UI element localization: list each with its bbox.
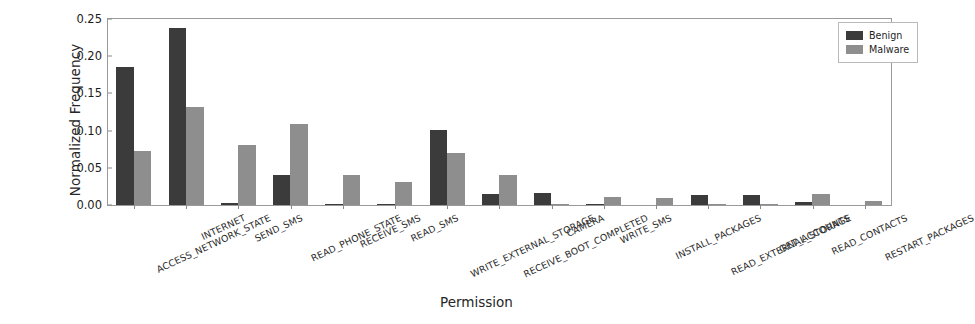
bar-benign bbox=[743, 195, 760, 205]
bar-benign bbox=[221, 203, 238, 205]
bar-malware bbox=[760, 204, 777, 205]
bar-malware bbox=[238, 145, 255, 205]
y-axis-tick-label: 0.20 bbox=[76, 49, 108, 63]
bar-benign bbox=[691, 195, 708, 205]
y-axis-tick-mark bbox=[108, 93, 112, 94]
y-axis-tick-mark bbox=[108, 56, 112, 57]
y-axis-tick-mark bbox=[108, 167, 112, 168]
x-axis-tick-label: ACCESS_NETWORK_STATE bbox=[155, 212, 273, 275]
x-axis-title: Permission bbox=[0, 294, 953, 310]
legend-label-malware: Malware bbox=[869, 44, 909, 55]
y-axis-tick-mark bbox=[108, 19, 112, 20]
bar-malware bbox=[290, 124, 307, 205]
bar-group bbox=[369, 19, 421, 205]
legend-item-malware: Malware bbox=[846, 43, 909, 56]
bar-benign bbox=[169, 28, 186, 205]
bar-malware bbox=[604, 197, 621, 205]
bar-benign bbox=[586, 204, 603, 205]
legend-item-benign: Benign bbox=[846, 29, 909, 42]
bar-malware bbox=[186, 107, 203, 205]
bar-group bbox=[317, 19, 369, 205]
bar-benign bbox=[325, 204, 342, 205]
bar-malware bbox=[447, 153, 464, 205]
legend-swatch-malware-icon bbox=[846, 45, 863, 54]
bar-benign bbox=[430, 130, 447, 205]
bar-benign bbox=[534, 193, 551, 205]
legend-swatch-benign-icon bbox=[846, 31, 863, 40]
bar-group bbox=[108, 19, 160, 205]
bar-malware bbox=[708, 204, 725, 205]
bar-benign bbox=[273, 175, 290, 205]
y-axis-tick-label: 0.25 bbox=[76, 12, 108, 26]
bar-group bbox=[734, 19, 786, 205]
legend-label-benign: Benign bbox=[869, 30, 902, 41]
chart-legend: Benign Malware bbox=[838, 22, 918, 63]
bar-group bbox=[473, 19, 525, 205]
x-axis-tick-label: READ_PHONE_STATE bbox=[309, 212, 403, 264]
bar-group bbox=[526, 19, 578, 205]
bars-container bbox=[108, 19, 891, 205]
y-axis-tick-label: 0.00 bbox=[76, 198, 108, 212]
bar-benign bbox=[482, 194, 499, 205]
bar-malware bbox=[499, 175, 516, 206]
bar-group bbox=[265, 19, 317, 205]
bar-group bbox=[787, 19, 839, 205]
bar-malware bbox=[551, 204, 568, 205]
bar-malware bbox=[395, 182, 412, 205]
y-axis-tick-mark bbox=[108, 130, 112, 131]
bar-malware bbox=[134, 151, 151, 205]
bar-malware bbox=[656, 198, 673, 205]
bar-malware bbox=[812, 194, 829, 205]
bar-malware bbox=[343, 175, 360, 205]
bar-group bbox=[212, 19, 264, 205]
bar-group bbox=[421, 19, 473, 205]
bar-group bbox=[682, 19, 734, 205]
bar-benign bbox=[377, 204, 394, 205]
bar-group bbox=[160, 19, 212, 205]
plot-area: 0.000.050.100.150.200.25 bbox=[107, 18, 892, 206]
y-axis-tick-label: 0.15 bbox=[76, 86, 108, 100]
bar-group bbox=[630, 19, 682, 205]
bar-benign bbox=[795, 202, 812, 205]
bar-malware bbox=[865, 201, 882, 205]
x-axis-tick-label: INSTALL_PACKAGES bbox=[674, 212, 763, 261]
x-axis-tick-labels: ACCESS_NETWORK_STATEINTERNETSEND_SMSREAD… bbox=[107, 206, 892, 306]
y-axis-tick-label: 0.05 bbox=[76, 161, 108, 175]
bar-group bbox=[578, 19, 630, 205]
y-axis-tick-label: 0.10 bbox=[76, 124, 108, 138]
bar-benign bbox=[116, 67, 133, 205]
